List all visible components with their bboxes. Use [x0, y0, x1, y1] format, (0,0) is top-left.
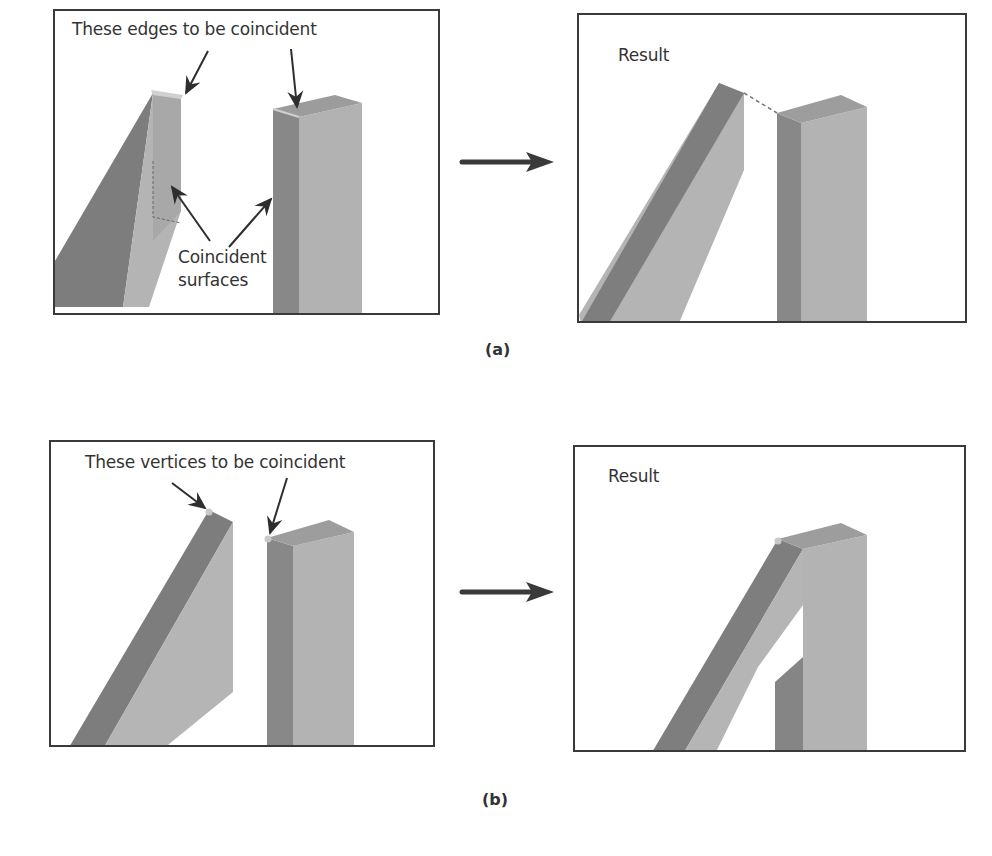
beams-b-result-illustration: [575, 447, 966, 752]
vertices-coincident-label: These vertices to be coincident: [85, 452, 345, 472]
result-label-a: Result: [618, 45, 669, 65]
edges-coincident-label: These edges to be coincident: [72, 19, 317, 39]
result-label-b: Result: [608, 466, 659, 486]
panel-a-result: Result: [577, 13, 967, 323]
coincident-surfaces-label-line2: surfaces: [178, 270, 248, 290]
caption-a: (a): [485, 340, 510, 359]
transform-arrow-b: [458, 578, 558, 608]
transform-arrow-a: [458, 148, 558, 178]
panel-a-before: These edges to be coincident Coincident …: [53, 9, 440, 315]
coincident-surfaces-label-line1: Coincident: [178, 247, 267, 267]
caption-b: (b): [482, 790, 508, 809]
panel-b-before: These vertices to be coincident: [49, 440, 435, 747]
beams-b-before-illustration: [51, 442, 435, 747]
panel-b-result: Result: [573, 445, 966, 752]
